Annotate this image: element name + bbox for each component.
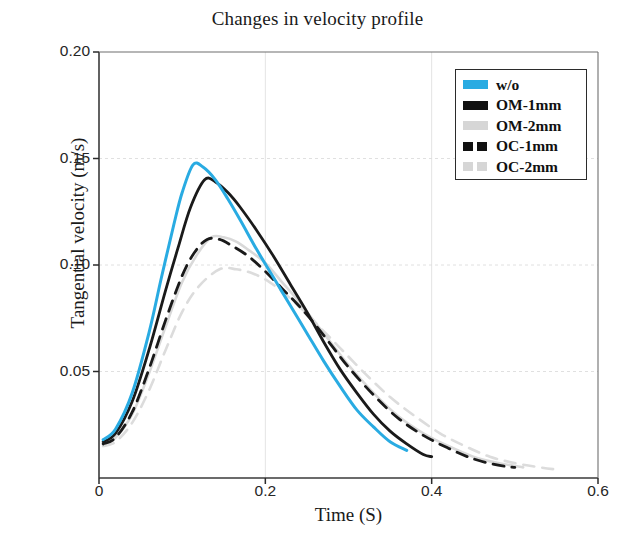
legend-swatch-oc-1mm	[463, 142, 488, 151]
legend: w/oOM-1mmOM-2mmOC-1mmOC-2mm	[455, 69, 587, 180]
legend-label: OC-2mm	[496, 158, 558, 176]
legend-item[interactable]: OC-2mm	[463, 156, 585, 177]
legend-item[interactable]: OM-2mm	[463, 115, 585, 136]
legend-label: OM-2mm	[496, 117, 561, 135]
legend-swatch-om-2mm	[463, 121, 488, 130]
velocity-profile-chart: Changes in velocity profile Tangential v…	[0, 0, 635, 539]
legend-label: OC-1mm	[496, 137, 558, 155]
legend-label: w/o	[496, 76, 519, 94]
series-line-w-o	[103, 163, 407, 450]
legend-label: OM-1mm	[496, 96, 561, 114]
legend-item[interactable]: OC-1mm	[463, 136, 585, 157]
data-series-group	[103, 163, 556, 469]
legend-item[interactable]: OM-1mm	[463, 95, 585, 116]
legend-swatch-om-1mm	[463, 101, 488, 110]
legend-item[interactable]: w/o	[463, 74, 585, 95]
legend-swatch-oc-2mm	[463, 162, 488, 171]
legend-swatch-w-o	[463, 80, 488, 89]
